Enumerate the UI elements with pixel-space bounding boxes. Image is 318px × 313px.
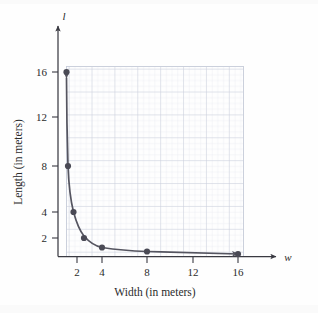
data-point (70, 209, 76, 215)
data-point (99, 244, 105, 250)
data-point (144, 248, 150, 254)
data-point (65, 163, 71, 169)
inverse-variation-chart: 2 4 8 12 16 16 12 8 4 2 l w Width (in me… (0, 0, 318, 313)
y-tick-label: 8 (42, 160, 48, 172)
graph-figure: 2 4 8 12 16 16 12 8 4 2 l w Width (in me… (0, 0, 318, 313)
y-axis-title: Length (in meters) (12, 119, 25, 205)
data-point (81, 235, 87, 241)
y-tick-label: 16 (36, 66, 48, 78)
x-tick-label: 12 (188, 266, 199, 278)
x-tick-label: 16 (233, 266, 245, 278)
data-point (63, 69, 69, 75)
y-tick-label: 12 (36, 111, 47, 123)
y-tick-label: 4 (42, 206, 48, 218)
x-tick-label: 8 (144, 266, 150, 278)
y-tick-label: 2 (42, 232, 48, 244)
x-axis-variable-label: w (284, 251, 292, 263)
x-tick-label: 4 (99, 266, 105, 278)
y-axis-variable-label: l (62, 10, 65, 22)
grid-area (67, 67, 244, 257)
x-tick-label: 2 (74, 266, 80, 278)
data-point (235, 251, 241, 257)
x-axis-title: Width (in meters) (114, 286, 195, 299)
